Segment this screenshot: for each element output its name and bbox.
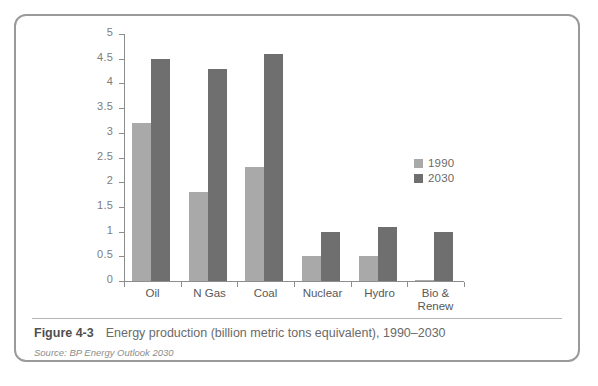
x-category-label: Oil [124, 287, 181, 300]
bar-2030 [378, 227, 397, 281]
x-tick [464, 282, 465, 287]
figure-caption: Figure 4-3Energy production (billion met… [34, 326, 562, 358]
bar-2030 [151, 59, 170, 281]
bar-1990 [189, 192, 208, 281]
legend-swatch-1990-icon [414, 159, 423, 168]
bar-2030 [321, 232, 340, 281]
x-category-label: Nuclear [294, 287, 351, 300]
y-tick-label: 2.5 [97, 150, 113, 162]
bar-group: Coal [237, 34, 294, 281]
y-tick-label: 3 [107, 125, 113, 137]
y-tick-label: 0.5 [97, 248, 113, 260]
caption-main: Figure 4-3Energy production (billion met… [34, 326, 562, 340]
figure-frame: 00.511.522.533.544.55 OilN GasCoalNuclea… [14, 14, 580, 362]
bar-group: Hydro [351, 34, 408, 281]
plot-area: 00.511.522.533.544.55 OilN GasCoalNuclea… [124, 34, 464, 282]
bar-2030 [264, 54, 283, 281]
y-tick-label: 4 [107, 75, 113, 87]
figure-title: Energy production (billion metric tons e… [106, 326, 446, 340]
bar-1990 [245, 167, 264, 281]
y-tick-label: 1 [107, 224, 113, 236]
bar-1990 [359, 256, 378, 281]
legend-label-1990: 1990 [428, 157, 454, 169]
bar-group: N Gas [181, 34, 238, 281]
legend-item-1990: 1990 [414, 156, 454, 170]
legend-label-2030: 2030 [428, 172, 454, 184]
x-category-label: Bio & Renew [407, 287, 464, 313]
figure-source: Source: BP Energy Outlook 2030 [34, 347, 562, 358]
figure-number: Figure 4-3 [34, 326, 94, 340]
bar-1990 [415, 280, 434, 281]
bar-1990 [132, 123, 151, 281]
y-tick-label: 1.5 [97, 199, 113, 211]
x-category-label: N Gas [181, 287, 238, 300]
y-tick-label: 3.5 [97, 100, 113, 112]
x-category-label: Hydro [351, 287, 408, 300]
legend-swatch-2030-icon [414, 174, 423, 183]
chart-area: 00.511.522.533.544.55 OilN GasCoalNuclea… [16, 16, 578, 316]
bar-2030 [208, 69, 227, 281]
bar-group: Nuclear [294, 34, 351, 281]
legend-item-2030: 2030 [414, 171, 454, 185]
chart-legend: 1990 2030 [414, 156, 454, 186]
y-tick-label: 5 [107, 26, 113, 38]
bar-1990 [302, 256, 321, 281]
caption-divider [32, 318, 562, 319]
bar-2030 [434, 232, 453, 281]
y-tick-label: 4.5 [97, 51, 113, 63]
bar-group: Oil [124, 34, 181, 281]
y-tick-label: 2 [107, 174, 113, 186]
y-tick-label: 0 [107, 273, 113, 285]
x-category-label: Coal [237, 287, 294, 300]
